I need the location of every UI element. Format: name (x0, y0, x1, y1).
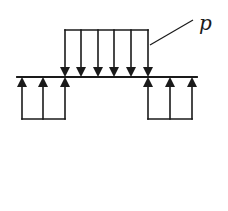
load-leader-line (150, 20, 193, 45)
arrow-down-icon (60, 67, 70, 77)
load-label-p: p (199, 11, 212, 35)
arrow-up-icon (60, 77, 70, 87)
arrow-down-icon (126, 67, 136, 77)
reaction-load-group (17, 77, 197, 119)
arrow-up-icon (17, 77, 27, 87)
arrow-up-icon (38, 77, 48, 87)
arrow-down-icon (76, 67, 86, 77)
arrow-down-icon (143, 67, 153, 77)
arrow-up-icon (165, 77, 175, 87)
pressure-diagram: p (0, 0, 228, 211)
arrow-up-icon (143, 77, 153, 87)
applied-load-group (60, 30, 153, 77)
reaction-right (143, 77, 197, 119)
leader-line (150, 20, 193, 45)
arrow-down-icon (93, 67, 103, 77)
reaction-left (17, 77, 70, 119)
arrow-down-icon (109, 67, 119, 77)
arrow-up-icon (187, 77, 197, 87)
